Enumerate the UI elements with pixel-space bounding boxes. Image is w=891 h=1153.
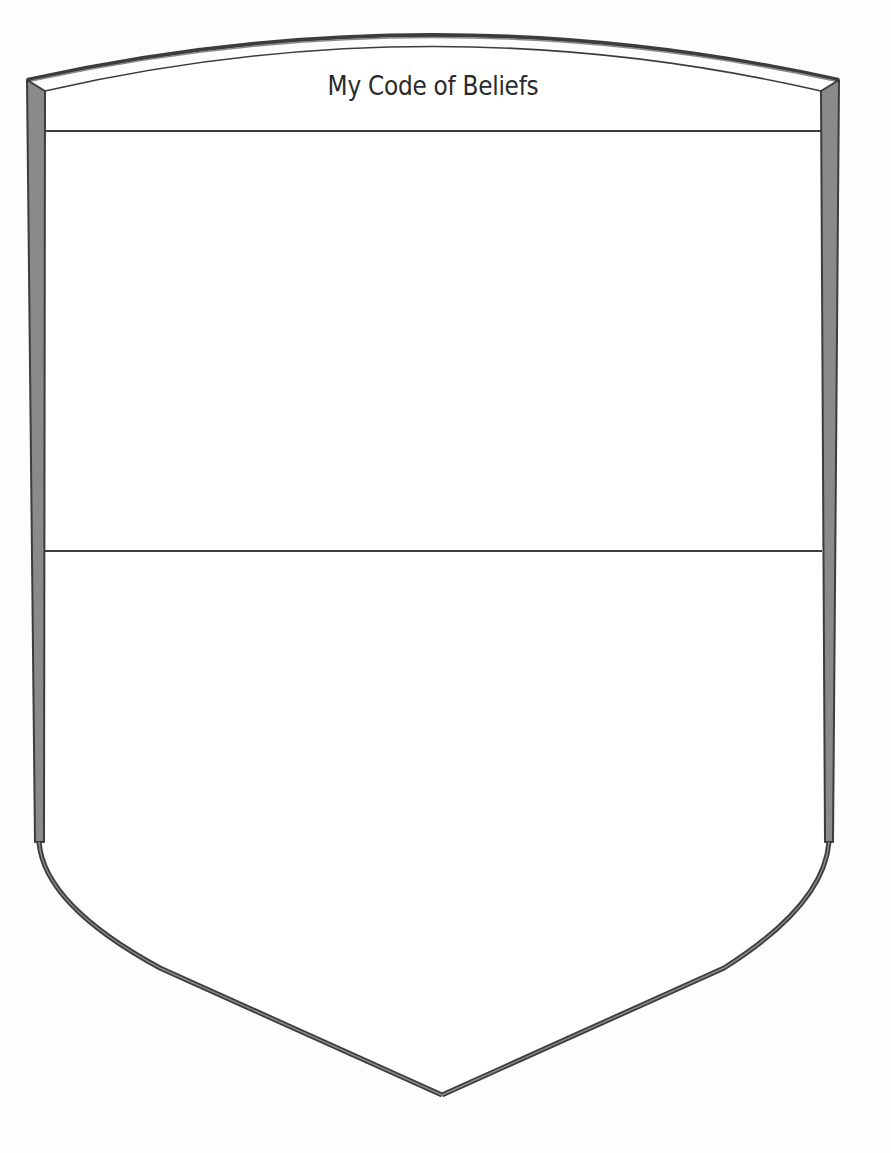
top-writing-area[interactable] (46, 133, 820, 549)
shield-right-band (821, 80, 839, 842)
bottom-writing-area[interactable] (46, 553, 822, 953)
worksheet-page: My Code of Beliefs (0, 0, 891, 1153)
worksheet-title: My Code of Beliefs (61, 70, 806, 101)
shield-left-band (27, 80, 45, 842)
